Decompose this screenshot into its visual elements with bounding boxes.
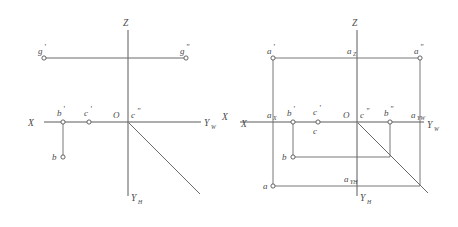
svg-text:": ": [137, 107, 141, 116]
right-label-origin: O: [343, 110, 350, 120]
right-diagram: Z X Y W Y H a ' a Z a " a X b ': [240, 18, 440, 205]
right-label-a-z: a Z: [347, 46, 357, 57]
right-label-b-prime: b ': [287, 105, 295, 118]
svg-text:b: b: [384, 108, 389, 118]
svg-text:YH: YH: [350, 179, 358, 185]
right-oblique-ray: [358, 123, 428, 193]
svg-text:W: W: [211, 124, 217, 130]
svg-text:b: b: [57, 108, 62, 118]
right-point-b-double[interactable]: [388, 120, 392, 124]
right-label-b: b: [282, 152, 287, 162]
svg-text:": ": [390, 105, 394, 114]
svg-text:': ': [319, 104, 321, 113]
left-label-axis-yw: Y W: [204, 118, 217, 130]
svg-text:a: a: [267, 110, 272, 120]
svg-text:YW: YW: [417, 115, 426, 121]
left-diagram: Z X Y W Y H X g ' g " b ' c ' O c: [27, 18, 229, 205]
svg-text:': ': [293, 105, 295, 114]
left-point-g-prime[interactable]: [42, 56, 46, 60]
svg-text:': ': [63, 105, 65, 114]
svg-text:c: c: [360, 110, 364, 120]
svg-text:a: a: [411, 110, 416, 120]
left-point-b-prime[interactable]: [61, 120, 65, 124]
right-point-b[interactable]: [291, 155, 295, 159]
svg-text:": ": [366, 107, 370, 116]
left-oblique-ray: [129, 123, 200, 194]
right-label-a-yh: a YH: [344, 174, 358, 185]
svg-text:g: g: [180, 46, 185, 56]
svg-text:': ': [90, 105, 92, 114]
right-label-c-double: c ": [360, 107, 370, 120]
svg-text:b: b: [287, 108, 292, 118]
right-label-axis-yh: Y H: [360, 193, 372, 205]
right-point-c[interactable]: [316, 120, 320, 124]
svg-text:H: H: [366, 199, 372, 205]
svg-text:': ': [44, 43, 46, 52]
svg-text:c: c: [313, 107, 317, 117]
svg-text:": ": [420, 43, 424, 52]
svg-text:a: a: [347, 46, 352, 56]
left-point-g-double[interactable]: [184, 56, 188, 60]
left-label-b-prime: b ': [57, 105, 65, 118]
left-label-axis-yh: Y H: [131, 193, 143, 205]
drawing-canvas: Z X Y W Y H X g ' g " b ' c ' O c: [0, 0, 458, 227]
svg-text:H: H: [137, 199, 143, 205]
svg-text:Y: Y: [360, 193, 367, 203]
svg-text:c: c: [131, 110, 135, 120]
left-trailing-label-x: X: [221, 112, 229, 122]
right-label-axis-z: Z: [352, 18, 358, 28]
left-label-c-prime: c ': [84, 105, 92, 118]
right-label-a-yw: a YW: [411, 110, 426, 121]
svg-text:a: a: [267, 46, 272, 56]
svg-text:c: c: [84, 108, 88, 118]
svg-text:Y: Y: [427, 120, 434, 130]
svg-text:': ': [273, 43, 275, 52]
left-point-c-prime[interactable]: [87, 120, 91, 124]
svg-text:Y: Y: [131, 193, 138, 203]
svg-text:Z: Z: [353, 51, 357, 57]
right-label-a-double: a ": [414, 43, 424, 56]
right-point-a[interactable]: [271, 184, 275, 188]
right-label-c: c: [313, 126, 317, 136]
right-label-c-prime: c ': [313, 104, 321, 117]
right-label-a: a: [263, 181, 268, 191]
svg-text:W: W: [434, 126, 440, 132]
svg-text:Y: Y: [204, 118, 211, 128]
right-label-a-x: a X: [267, 110, 277, 121]
svg-text:a: a: [414, 46, 419, 56]
left-label-axis-z: Z: [123, 18, 129, 28]
right-label-axis-x: X: [240, 119, 248, 129]
right-point-a-double[interactable]: [418, 56, 422, 60]
right-label-a-prime: a ': [267, 43, 275, 56]
left-label-origin: O: [113, 110, 120, 120]
right-label-axis-yw: Y W: [427, 120, 440, 132]
left-label-b: b: [52, 152, 57, 162]
left-point-b[interactable]: [61, 155, 65, 159]
right-point-b-prime[interactable]: [291, 120, 295, 124]
svg-text:a: a: [344, 174, 349, 184]
left-label-g-prime: g ': [38, 43, 46, 56]
right-label-b-double: b ": [384, 105, 394, 118]
svg-text:g: g: [38, 46, 43, 56]
left-label-c-double: c ": [131, 107, 141, 120]
svg-text:": ": [186, 43, 190, 52]
technical-drawing-svg: Z X Y W Y H X g ' g " b ' c ' O c: [0, 0, 458, 227]
left-label-axis-x: X: [27, 118, 35, 128]
right-point-a-prime[interactable]: [271, 56, 275, 60]
left-label-g-double: g ": [180, 43, 190, 56]
svg-text:X: X: [272, 115, 277, 121]
